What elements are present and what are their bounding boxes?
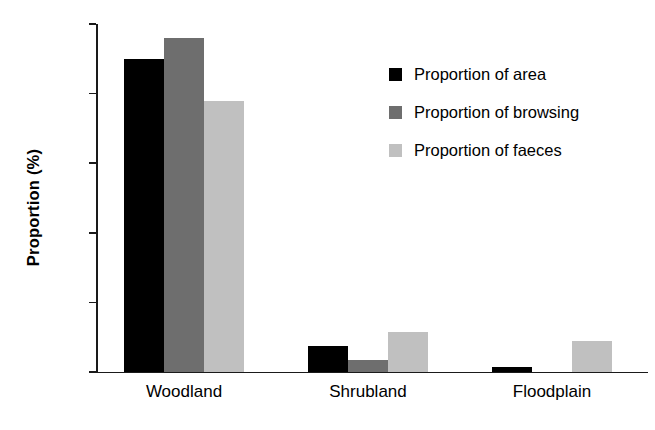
bar	[164, 38, 204, 372]
y-axis-tick	[89, 23, 96, 25]
chart-legend: Proportion of areaProportion of browsing…	[389, 55, 579, 169]
x-axis-category-label: Woodland	[89, 382, 279, 402]
legend-swatch-icon	[389, 144, 402, 157]
x-axis-category-label: Floodplain	[457, 382, 647, 402]
legend-item: Proportion of faeces	[389, 131, 579, 169]
legend-swatch-icon	[389, 106, 402, 119]
y-axis-label: Proportion (%)	[24, 113, 43, 303]
legend-label: Proportion of browsing	[414, 103, 579, 122]
y-axis-tick	[89, 232, 96, 234]
legend-swatch-icon	[389, 68, 402, 81]
bar	[492, 367, 532, 372]
y-axis-tick	[89, 162, 96, 164]
legend-label: Proportion of faeces	[414, 141, 562, 160]
bar	[388, 332, 428, 372]
y-axis-tick	[89, 302, 96, 304]
bar	[572, 341, 612, 372]
y-axis-tick	[89, 371, 96, 373]
y-axis-tick	[89, 93, 96, 95]
legend-item: Proportion of area	[389, 55, 579, 93]
legend-label: Proportion of area	[414, 65, 546, 84]
bar	[124, 59, 164, 372]
bar	[204, 101, 244, 372]
bar-chart-figure: Proportion (%) 020406080100 WoodlandShru…	[0, 0, 655, 430]
x-axis-category-label: Shrubland	[273, 382, 463, 402]
bar	[308, 346, 348, 372]
bar	[348, 360, 388, 372]
legend-item: Proportion of browsing	[389, 93, 579, 131]
